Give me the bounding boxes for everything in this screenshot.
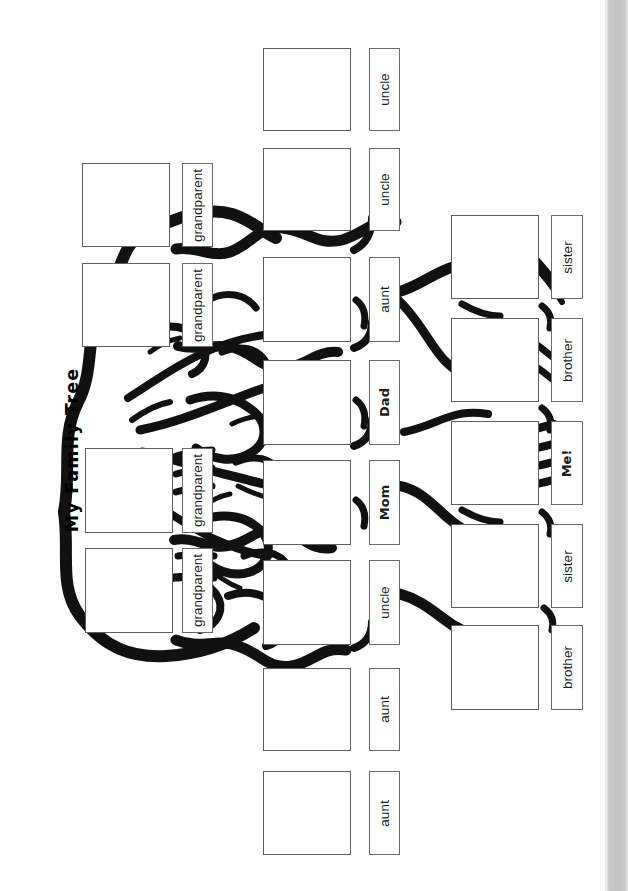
- label-aunt-2: aunt: [369, 668, 400, 751]
- photo-box-me[interactable]: [451, 421, 539, 505]
- label-me: Me!: [551, 421, 583, 505]
- photo-box-sister-2[interactable]: [451, 524, 539, 608]
- label-text: sister: [560, 550, 575, 582]
- label-grandparent-3: grandparent: [182, 448, 213, 533]
- label-uncle-1: uncle: [369, 48, 400, 131]
- label-sister-2: sister: [551, 524, 583, 608]
- label-brother-2: brother: [551, 625, 583, 710]
- label-mom: Mom: [369, 460, 400, 545]
- photo-box-uncle-3[interactable]: [263, 560, 351, 645]
- photo-box-grandparent-3[interactable]: [85, 448, 173, 533]
- photo-box-sister-1[interactable]: [451, 215, 539, 299]
- photo-box-uncle-2[interactable]: [263, 148, 351, 231]
- photo-box-aunt-2[interactable]: [263, 668, 351, 751]
- label-text: brother: [560, 339, 575, 382]
- photo-box-brother-2[interactable]: [451, 625, 539, 710]
- page-title: My Family Tree: [62, 350, 82, 550]
- photo-box-aunt-1[interactable]: [263, 257, 351, 342]
- label-text: Dad: [377, 388, 392, 417]
- label-text: grandparent: [190, 169, 205, 242]
- label-dad: Dad: [369, 360, 400, 445]
- label-grandparent-1: grandparent: [182, 163, 213, 247]
- label-sister-1: sister: [551, 215, 583, 299]
- photo-box-grandparent-4[interactable]: [85, 548, 173, 633]
- label-text: Me!: [560, 449, 575, 477]
- photo-box-dad[interactable]: [263, 360, 351, 445]
- label-text: aunt: [377, 696, 392, 722]
- photo-box-grandparent-2[interactable]: [82, 263, 170, 347]
- label-text: sister: [560, 241, 575, 273]
- label-text: uncle: [377, 173, 392, 205]
- label-grandparent-4: grandparent: [182, 548, 213, 633]
- photo-box-grandparent-1[interactable]: [82, 163, 170, 247]
- label-text: grandparent: [190, 454, 205, 527]
- photo-box-uncle-1[interactable]: [263, 48, 351, 131]
- label-uncle-2: uncle: [369, 148, 400, 231]
- label-text: aunt: [377, 286, 392, 312]
- label-aunt-1: aunt: [369, 257, 400, 342]
- label-text: grandparent: [190, 554, 205, 627]
- photo-box-mom[interactable]: [263, 460, 351, 545]
- label-text: aunt: [377, 800, 392, 826]
- label-aunt-3: aunt: [369, 771, 400, 855]
- label-text: uncle: [377, 586, 392, 618]
- label-text: grandparent: [190, 269, 205, 342]
- label-grandparent-2: grandparent: [182, 263, 213, 347]
- label-uncle-3: uncle: [369, 560, 400, 645]
- photo-box-aunt-3[interactable]: [263, 771, 351, 855]
- label-text: uncle: [377, 73, 392, 105]
- label-brother-1: brother: [551, 318, 583, 402]
- scan-edge-strip: [606, 0, 628, 891]
- worksheet-page: My Family Tree grandparent grandparent g…: [0, 0, 628, 891]
- label-text: Mom: [377, 485, 392, 520]
- photo-box-brother-1[interactable]: [451, 318, 539, 402]
- label-text: brother: [560, 646, 575, 689]
